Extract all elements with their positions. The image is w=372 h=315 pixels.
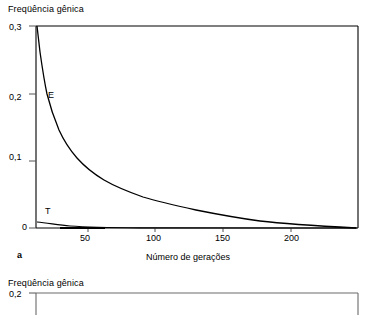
- series-label-t: T: [45, 206, 51, 216]
- y-tick-label-0-1: 0,1: [9, 152, 22, 162]
- figure-gene-frequency: Freqüência gênica: [0, 0, 372, 315]
- panel-a-plot-area: [0, 0, 372, 270]
- series-label-e: E: [48, 90, 54, 100]
- x-tick-marks: [88, 228, 291, 232]
- panel-b-y-tick-label-0-2: 0,2: [9, 289, 22, 299]
- y-tick-label-0: 0: [22, 222, 27, 232]
- y-tick-label-0-2: 0,2: [9, 92, 22, 102]
- x-tick-label-100: 100: [146, 233, 161, 243]
- y-tick-marks: [29, 26, 36, 228]
- chart-panel-b: Freqüência gênica 0,2: [0, 278, 372, 315]
- plot-frame: [36, 26, 358, 228]
- panel-b-plot-area: [0, 278, 372, 315]
- x-axis-title: Número de gerações: [146, 252, 230, 262]
- x-tick-label-150: 150: [215, 233, 230, 243]
- panel-letter-a: a: [17, 250, 22, 260]
- chart-panel-a: Freqüência gênica: [0, 0, 372, 270]
- x-tick-label-200: 200: [284, 233, 299, 243]
- x-tick-label-50: 50: [80, 233, 90, 243]
- series-curve-e: [37, 26, 356, 228]
- y-tick-label-0-3: 0,3: [9, 22, 22, 32]
